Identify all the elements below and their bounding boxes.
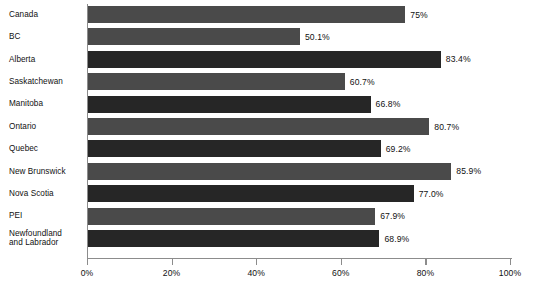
bar-value-label: 75% — [410, 10, 428, 20]
bar-row: 69.2% — [88, 140, 512, 157]
bar-row: 80.7% — [88, 118, 512, 135]
category-label: Quebec — [9, 144, 87, 154]
category-label: PEI — [9, 211, 87, 221]
bar — [88, 230, 379, 247]
bar — [88, 6, 405, 23]
x-axis-tick-label: 40% — [247, 268, 265, 278]
x-axis-tick — [172, 259, 173, 265]
bar-value-label: 68.9% — [384, 234, 409, 244]
bar-value-label: 85.9% — [456, 166, 481, 176]
bar-value-label: 80.7% — [434, 122, 459, 132]
bar-value-label: 50.1% — [305, 32, 330, 42]
category-label: Canada — [9, 10, 87, 20]
bar — [88, 140, 381, 157]
x-axis-tick — [87, 259, 88, 265]
bar-row: 60.7% — [88, 73, 512, 90]
x-axis-tick — [256, 259, 257, 265]
category-label: New Brunswick — [9, 167, 87, 177]
bar-row: 77.0% — [88, 185, 512, 202]
bar — [88, 118, 429, 135]
category-label: Ontario — [9, 122, 87, 132]
bar — [88, 163, 451, 180]
bar-row: 67.9% — [88, 208, 512, 225]
x-axis-tick — [341, 259, 342, 265]
x-axis-tick-label: 0% — [81, 268, 94, 278]
bar-value-label: 66.8% — [376, 99, 401, 109]
category-label: Manitoba — [9, 99, 87, 109]
category-label: Nova Scotia — [9, 189, 87, 199]
x-axis-tick — [425, 259, 426, 265]
bar-row: 50.1% — [88, 28, 512, 45]
bar-value-label: 83.4% — [446, 54, 471, 64]
x-axis-tick-label: 80% — [417, 268, 435, 278]
category-axis: CanadaBCAlbertaSaskatchewanManitobaOntar… — [0, 0, 88, 258]
bar — [88, 51, 441, 68]
bar — [88, 28, 300, 45]
category-label: BC — [9, 32, 87, 42]
bar — [88, 208, 375, 225]
bar-row: 83.4% — [88, 51, 512, 68]
x-axis-line — [87, 258, 512, 259]
bar-row: 75% — [88, 6, 512, 23]
bar — [88, 73, 345, 90]
x-axis-tick — [510, 259, 511, 265]
y-axis-line — [87, 4, 88, 259]
bar-value-label: 77.0% — [419, 189, 444, 199]
x-axis-tick-label: 100% — [499, 268, 521, 278]
x-axis-tick-label: 20% — [163, 268, 181, 278]
bar-value-label: 60.7% — [350, 77, 375, 87]
bar-row: 85.9% — [88, 163, 512, 180]
bar-value-label: 69.2% — [386, 144, 411, 154]
category-label: Newfoundland and Labrador — [9, 229, 87, 248]
bar — [88, 185, 414, 202]
category-label: Saskatchewan — [9, 77, 87, 87]
bar — [88, 96, 371, 113]
plot-area: 75%50.1%83.4%60.7%66.8%80.7%69.2%85.9%77… — [88, 0, 512, 258]
bar-chart: CanadaBCAlbertaSaskatchewanManitobaOntar… — [0, 0, 546, 295]
bar-value-label: 67.9% — [380, 211, 405, 221]
bar-row: 66.8% — [88, 96, 512, 113]
bar-row: 68.9% — [88, 230, 512, 247]
x-axis-tick-label: 60% — [332, 268, 350, 278]
category-label: Alberta — [9, 55, 87, 65]
